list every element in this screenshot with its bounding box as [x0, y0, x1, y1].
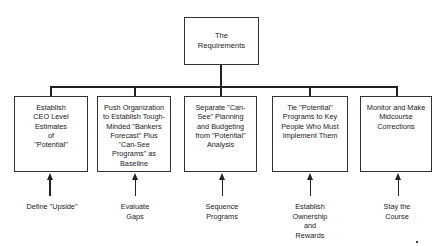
- arrow-shaft: [398, 179, 400, 196]
- requirements-root-box: The Requirements: [184, 17, 259, 65]
- action-label-1: Define "Upside": [12, 202, 92, 212]
- action-label-2: Evaluate Gaps: [95, 202, 175, 221]
- arrow-shaft: [310, 179, 312, 196]
- branch-connector-horizontal: [50, 86, 397, 88]
- action-label-5: Stay the Course: [357, 202, 437, 221]
- branch-drop-5: [396, 86, 398, 96]
- requirement-box-4: Tie "Potential" Programs to Key People W…: [272, 96, 348, 172]
- branch-drop-3: [220, 86, 222, 96]
- requirement-box-2: Push Organization to Establish Tough- Mi…: [97, 96, 171, 172]
- branch-drop-2: [134, 86, 136, 96]
- arrow-shaft: [49, 179, 51, 196]
- arrow-shaft: [135, 179, 137, 196]
- root-connector-vertical: [220, 65, 222, 87]
- requirement-box-5: Monitor and Make Midcourse Corrections: [360, 96, 432, 172]
- branch-drop-4: [309, 86, 311, 96]
- action-label-3: Sequence Programs: [182, 202, 262, 221]
- branch-drop-1: [50, 86, 52, 96]
- requirement-box-3: Separate "Can- See" Planning and Budgeti…: [184, 96, 257, 172]
- requirement-box-1: Establish CEO Level Estimates of "Potent…: [14, 96, 88, 172]
- arrow-shaft: [222, 179, 224, 196]
- scan-artifact: [416, 241, 418, 243]
- action-label-4: Establish Ownership and Rewards: [270, 202, 350, 240]
